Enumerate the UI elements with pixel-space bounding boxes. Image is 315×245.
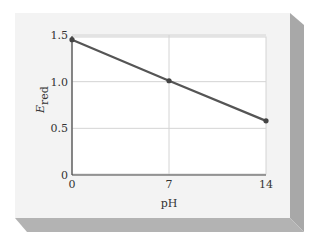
x-tick-label: 7 — [166, 178, 173, 191]
x-tick-label: 0 — [69, 178, 76, 191]
data-point — [69, 37, 74, 42]
data-point — [263, 118, 268, 123]
x-axis-label: pH — [161, 197, 178, 210]
y-tick-label: 0 — [61, 169, 68, 182]
y-tick-label: 0.5 — [51, 122, 69, 135]
x-tick-label: 14 — [259, 178, 273, 191]
data-point — [166, 78, 171, 83]
chart-svg: 00.51.01.5 0714 pH E red — [0, 0, 315, 245]
card-right-side — [290, 13, 304, 232]
card-bottom-side — [15, 218, 304, 232]
chart-card: 00.51.01.5 0714 pH E red — [0, 0, 315, 245]
y-tick-label: 1.5 — [51, 29, 69, 42]
svg-text:E: E — [34, 105, 47, 114]
svg-text:red: red — [38, 86, 51, 105]
y-tick-label: 1.0 — [51, 76, 69, 89]
